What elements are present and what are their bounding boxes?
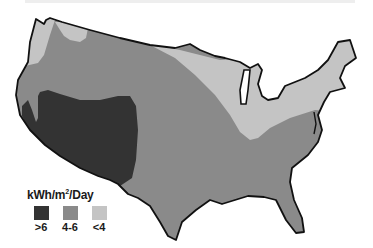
- legend-title: kWh/m2/Day: [27, 188, 117, 202]
- legend-item-high: >6: [27, 206, 55, 233]
- legend-unit-prefix: kWh/m: [27, 188, 65, 202]
- legend-label-high: >6: [35, 221, 48, 233]
- legend-swatches: >6 4-6 <4: [27, 206, 117, 233]
- legend-item-low: <4: [85, 206, 113, 233]
- legend-label-low: <4: [93, 221, 106, 233]
- swatch-low: [92, 206, 107, 220]
- legend-item-medium: 4-6: [56, 206, 84, 233]
- swatch-medium: [63, 206, 78, 220]
- swatch-high: [34, 206, 49, 220]
- legend: kWh/m2/Day >6 4-6 <4: [27, 188, 117, 233]
- zone-high-southwest: [22, 90, 138, 186]
- legend-unit-suffix: /Day: [69, 188, 94, 202]
- legend-label-medium: 4-6: [62, 221, 78, 233]
